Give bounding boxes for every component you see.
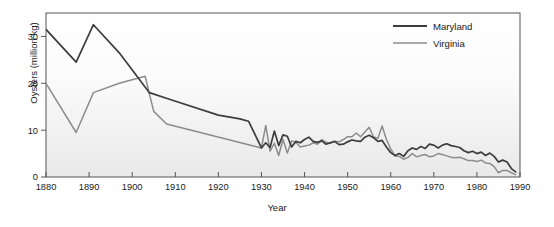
line-chart-svg: 0102030 18801890190019101920193019401950…	[0, 0, 554, 227]
svg-text:1890: 1890	[79, 182, 100, 192]
svg-text:1980: 1980	[467, 182, 488, 192]
legend-label-virginia: Virginia	[433, 38, 465, 49]
svg-text:1990: 1990	[510, 182, 531, 192]
svg-text:1960: 1960	[380, 182, 401, 192]
svg-text:1880: 1880	[36, 182, 57, 192]
svg-text:1900: 1900	[122, 182, 143, 192]
legend-label-maryland: Maryland	[433, 21, 472, 32]
svg-text:30: 30	[28, 32, 38, 42]
svg-text:20: 20	[28, 79, 38, 89]
svg-text:10: 10	[28, 126, 38, 136]
svg-text:1970: 1970	[423, 182, 444, 192]
svg-text:1940: 1940	[294, 182, 315, 192]
svg-text:1920: 1920	[208, 182, 229, 192]
svg-text:1950: 1950	[337, 182, 358, 192]
svg-text:0: 0	[33, 172, 38, 182]
svg-text:1930: 1930	[251, 182, 272, 192]
y-axis-ticks: 0102030	[28, 32, 46, 183]
chart-figure: Oysters (million kg) Year 0102030 188018…	[0, 0, 554, 227]
svg-text:1910: 1910	[165, 182, 186, 192]
